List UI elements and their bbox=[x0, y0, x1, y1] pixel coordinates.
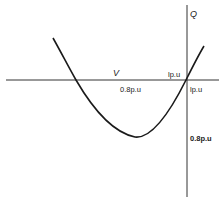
label-1pu-above: lp.u bbox=[168, 70, 180, 79]
label-1pu-below: lp.u bbox=[190, 85, 202, 94]
v-axis-label: V bbox=[113, 68, 120, 78]
label-0-8pu-v: 0.8p.u bbox=[120, 85, 141, 94]
qv-diagram: Q V 0.8p.u lp.u lp.u 0.8p.u bbox=[0, 0, 221, 201]
q-axis-label: Q bbox=[190, 9, 197, 19]
label-0-8pu-q: 0.8p.u bbox=[190, 134, 212, 143]
